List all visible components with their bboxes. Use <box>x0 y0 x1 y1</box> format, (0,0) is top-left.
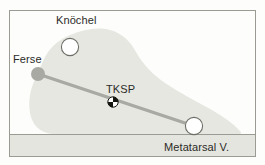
label-center-of-pressure: TKSP <box>106 83 135 95</box>
heel-marker <box>31 67 45 81</box>
label-heel: Ferse <box>13 53 42 65</box>
ankle-marker <box>61 38 78 55</box>
metatarsal-marker <box>185 117 202 134</box>
tksp-marker <box>108 97 118 107</box>
label-metatarsal: Metatarsal V. <box>164 141 229 153</box>
foot-diagram-figure: Knöchel Ferse TKSP Metatarsal V. <box>0 0 265 165</box>
label-ankle: Knöchel <box>56 14 96 26</box>
